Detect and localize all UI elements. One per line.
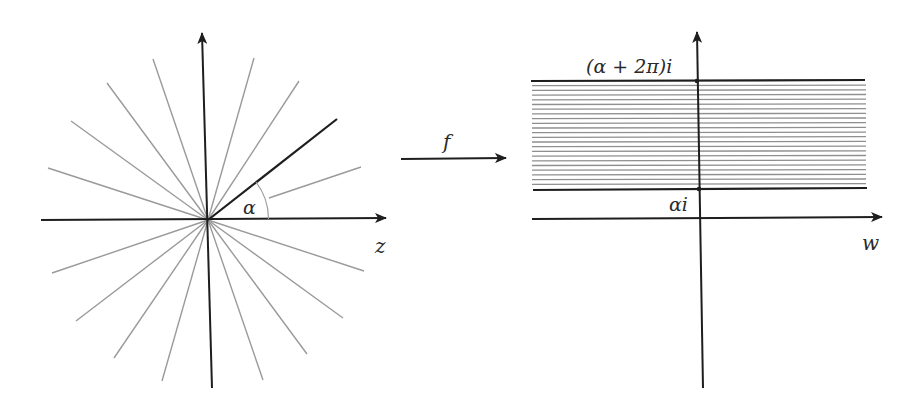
conformal-map-figure: α z f (α + 2π)i αi w [0,0,921,409]
radial-ray [208,220,263,380]
highlighted-ray-angle-alpha [208,119,337,220]
map-label-f: f [441,130,454,154]
radial-ray [208,220,364,271]
radial-ray [153,59,208,220]
radial-ray-partial [269,167,361,198]
w-plane-label: w [862,231,879,255]
w-plane: (α + 2π)i αi w [531,32,882,388]
map-arrow [401,158,506,159]
hatch-line [532,85,866,86]
radial-ray [114,220,208,358]
radial-ray [71,121,208,220]
upper-boundary-label: (α + 2π)i [586,55,672,77]
z-real-axis [41,218,386,220]
radial-ray [48,168,208,220]
z-plane: α z [41,33,386,388]
lower-intercept-point [697,187,702,192]
upper-intercept-point [695,79,700,84]
w-real-axis [532,217,882,219]
radial-ray [208,220,307,354]
radial-ray [107,83,208,220]
radial-ray [208,220,343,318]
map-arrow-f: f [401,130,506,159]
radial-ray [52,220,208,273]
radial-ray [162,220,208,381]
z-plane-label: z [374,234,386,258]
radial-ray [76,220,208,321]
hatch-line [532,90,866,91]
angle-arc [256,182,269,219]
lower-boundary-label: αi [669,193,688,215]
angle-label-alpha: α [243,196,256,218]
